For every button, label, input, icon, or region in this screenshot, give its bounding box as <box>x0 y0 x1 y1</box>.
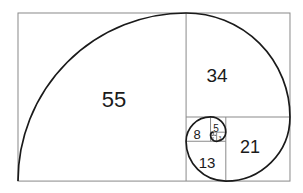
label-5: 5 <box>213 123 219 134</box>
label-55: 55 <box>102 87 126 112</box>
label-3: 3 <box>219 135 222 141</box>
label-2: 2 <box>212 137 214 141</box>
fibonacci-spiral-diagram: 55 34 21 13 8 5 3 2 1 1 <box>0 0 303 193</box>
label-13: 13 <box>199 154 216 171</box>
label-34: 34 <box>206 65 228 86</box>
label-21: 21 <box>240 137 260 157</box>
label-8: 8 <box>193 127 200 142</box>
